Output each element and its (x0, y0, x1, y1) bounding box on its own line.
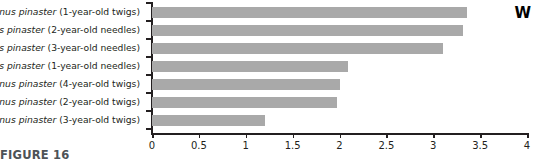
x-axis-tick-label: 3 (430, 140, 436, 151)
x-axis-tick (340, 133, 342, 138)
x-axis-tick (386, 133, 388, 138)
y-axis-tick (146, 38, 152, 40)
x-axis-tick-label: 1.5 (285, 140, 301, 151)
species-name: Pinus pinaster (0, 114, 56, 125)
y-axis-tick (146, 92, 152, 94)
category-suffix: (3-year-old twigs) (59, 114, 140, 125)
bar-chart: Pinus pinaster (1-year-old twigs) Pinus … (0, 0, 537, 140)
category-suffix: (3-year-old needles) (48, 42, 140, 53)
x-axis-tick-label: 2.5 (378, 140, 394, 151)
species-name: Pinus pinaster (0, 24, 45, 35)
species-name: Pinus pinaster (0, 60, 45, 71)
bar (152, 61, 348, 72)
figure-container: Pinus pinaster (1-year-old twigs) Pinus … (0, 0, 537, 161)
x-axis-tick-label: 0.5 (191, 140, 207, 151)
category-label: Pinus pinaster (1-year-old needles) (0, 57, 140, 75)
category-suffix: (1-year-old needles) (48, 60, 140, 71)
category-label: Pinus pinaster (4-year-old twigs) (0, 75, 140, 93)
y-axis-tick (146, 74, 152, 76)
x-axis-tick (293, 133, 295, 138)
x-axis-tick-label: 2 (336, 140, 342, 151)
species-name: Pinus pinaster (0, 96, 56, 107)
x-axis-tick (152, 133, 154, 138)
bar (152, 43, 443, 54)
category-axis-labels: Pinus pinaster (1-year-old twigs) Pinus … (0, 0, 146, 133)
category-suffix: (4-year-old twigs) (59, 78, 140, 89)
y-axis-tick (146, 2, 152, 4)
y-axis-tick (146, 56, 152, 58)
bar (152, 7, 467, 18)
category-label: Pinus pinaster (2-year-old needles) (0, 21, 140, 39)
species-name: Pinus pinaster (0, 6, 56, 17)
x-axis-tick (527, 133, 529, 138)
category-suffix: (2-year-old needles) (48, 24, 140, 35)
figure-caption: FIGURE 16 (0, 148, 69, 161)
species-name: Pinus pinaster (0, 42, 45, 53)
bar (152, 25, 463, 36)
x-axis-tick (246, 133, 248, 138)
category-suffix: (1-year-old twigs) (59, 6, 140, 17)
x-axis-tick-label: 4 (524, 140, 530, 151)
corner-annotation: W (514, 4, 531, 22)
category-label: Pinus pinaster (3-year-old twigs) (0, 111, 140, 129)
x-axis-tick-label: 3.5 (472, 140, 488, 151)
bar (152, 97, 337, 108)
x-axis-tick (199, 133, 201, 138)
category-label: Pinus pinaster (1-year-old twigs) (0, 3, 140, 21)
species-name: Pinus pinaster (0, 78, 56, 89)
x-axis-tick (480, 133, 482, 138)
x-axis-tick-label: 0 (149, 140, 155, 151)
x-axis-tick-label: 1 (243, 140, 249, 151)
x-axis-tick (433, 133, 435, 138)
category-label: Pinus pinaster (2-year-old twigs) (0, 93, 140, 111)
bar (152, 115, 265, 126)
y-axis-tick (146, 20, 152, 22)
y-axis-tick (146, 110, 152, 112)
category-suffix: (2-year-old twigs) (59, 96, 140, 107)
y-axis-tick (146, 128, 152, 130)
category-label: Pinus pinaster (3-year-old needles) (0, 39, 140, 57)
bar (152, 79, 340, 90)
